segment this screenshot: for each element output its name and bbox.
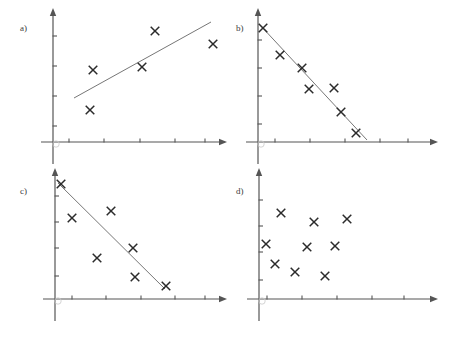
data-point-marker <box>131 273 140 282</box>
data-point-marker <box>259 24 268 33</box>
data-point-marker <box>276 51 285 60</box>
data-point-marker <box>129 244 138 253</box>
data-point-marker <box>337 108 346 117</box>
data-point-marker <box>343 215 352 224</box>
panel-d <box>247 168 438 321</box>
y-axis-arrow-icon <box>255 8 261 16</box>
data-point-marker <box>68 214 77 223</box>
data-point-marker <box>89 66 98 75</box>
panel-label-c: c) <box>20 187 27 196</box>
trend-line <box>58 183 165 289</box>
panel-a <box>41 8 227 164</box>
data-point-marker <box>262 240 271 249</box>
data-point-marker <box>151 27 160 36</box>
panel-label-a: a) <box>20 24 27 33</box>
data-point-marker <box>298 64 307 73</box>
data-point-marker <box>352 129 361 138</box>
x-axis-arrow-icon <box>219 296 227 302</box>
data-points-a <box>86 27 218 115</box>
data-points-b <box>259 24 361 138</box>
data-point-marker <box>330 84 339 93</box>
y-axis-arrow-icon <box>50 8 56 16</box>
axes-d <box>247 168 438 321</box>
axes-b <box>246 8 438 164</box>
data-point-marker <box>57 180 66 189</box>
data-point-marker <box>138 63 147 72</box>
trend-line <box>260 25 367 140</box>
panel-label-d: d) <box>236 187 244 196</box>
data-point-marker <box>277 209 286 218</box>
data-points-c <box>57 180 171 291</box>
x-axis-arrow-icon <box>219 139 227 145</box>
x-axis-arrow-icon <box>430 296 438 302</box>
data-point-marker <box>305 85 314 94</box>
axes-c <box>43 168 227 321</box>
y-axis-arrow-icon <box>256 168 262 176</box>
data-point-marker <box>107 207 116 216</box>
x-axis-arrow-icon <box>430 139 438 145</box>
data-point-marker <box>291 268 300 277</box>
data-point-marker <box>93 254 102 263</box>
y-axis-arrow-icon <box>52 168 58 176</box>
panel-c <box>43 168 227 321</box>
data-point-marker <box>271 260 280 269</box>
axes-a <box>41 8 227 164</box>
data-point-marker <box>321 272 330 281</box>
data-point-marker <box>86 106 95 115</box>
data-point-marker <box>310 218 319 227</box>
data-point-marker <box>303 243 312 252</box>
data-point-marker <box>331 242 340 251</box>
data-point-marker <box>209 40 218 49</box>
data-points-d <box>262 209 352 281</box>
scatterplot-figure: a)b)c)d) <box>0 0 449 340</box>
panel-b <box>246 8 438 164</box>
trend-line <box>74 22 211 98</box>
panel-label-b: b) <box>236 24 244 33</box>
figure-canvas <box>0 0 449 340</box>
data-point-marker <box>162 282 171 291</box>
